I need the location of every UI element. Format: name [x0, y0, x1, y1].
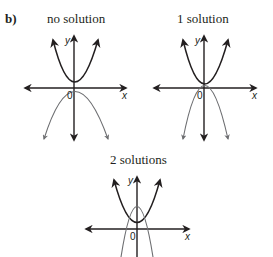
downward-parabola: [44, 92, 108, 140]
graph-no-solution: y x 0: [25, 35, 128, 140]
diagram-canvas: y x 0 y x 0 y x 0: [0, 0, 273, 257]
x-axis-label: x: [121, 90, 128, 101]
origin-label: 0: [67, 90, 73, 101]
upward-parabola: [183, 40, 228, 84]
origin-label: 0: [197, 90, 203, 101]
downward-parabola: [183, 86, 228, 140]
origin-label: 0: [130, 231, 136, 242]
x-axis-label: x: [184, 231, 191, 242]
x-axis-label: x: [251, 90, 258, 101]
upward-parabola: [53, 40, 98, 82]
graph-one-solution: y x 0: [154, 35, 258, 140]
y-axis-label: y: [127, 175, 134, 186]
y-axis-label: y: [194, 35, 201, 46]
graph-two-solutions: y x 0: [86, 175, 191, 257]
y-axis-label: y: [64, 35, 71, 46]
